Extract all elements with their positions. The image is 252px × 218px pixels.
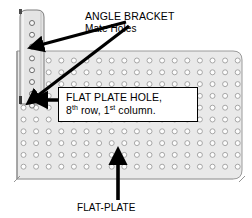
hole <box>71 129 76 134</box>
hole <box>84 82 89 87</box>
hole <box>109 70 114 75</box>
hole <box>71 58 76 63</box>
label-flat-plate: FLAT-PLATE <box>77 203 135 214</box>
hole <box>223 82 228 87</box>
hole <box>235 58 240 63</box>
hole <box>185 129 190 134</box>
hole <box>223 105 228 110</box>
hole <box>46 58 51 63</box>
hole <box>235 129 240 134</box>
hole <box>84 129 89 134</box>
hole <box>34 152 39 157</box>
hole <box>21 164 26 169</box>
hole <box>147 141 152 146</box>
hole <box>235 164 240 169</box>
hole <box>172 141 177 146</box>
hole <box>197 152 202 157</box>
hole <box>59 70 64 75</box>
hole <box>30 91 35 96</box>
hole <box>122 152 127 157</box>
hole <box>71 164 76 169</box>
hole <box>109 141 114 146</box>
hole <box>97 152 102 157</box>
hole <box>84 141 89 146</box>
hole <box>97 70 102 75</box>
hole <box>59 141 64 146</box>
hole <box>185 164 190 169</box>
hole <box>210 152 215 157</box>
hole <box>210 93 215 98</box>
hole <box>235 105 240 110</box>
hole <box>122 129 127 134</box>
hole <box>160 152 165 157</box>
hole <box>147 164 152 169</box>
hole <box>84 70 89 75</box>
hole <box>210 70 215 75</box>
hole <box>122 164 127 169</box>
hole <box>172 58 177 63</box>
hole <box>46 141 51 146</box>
hole <box>109 152 114 157</box>
hole <box>34 117 39 122</box>
hole <box>172 129 177 134</box>
hole <box>21 105 26 110</box>
hole <box>109 164 114 169</box>
hole <box>122 58 127 63</box>
hole <box>160 58 165 63</box>
hole <box>109 129 114 134</box>
hole <box>134 70 139 75</box>
hole <box>160 141 165 146</box>
hole <box>134 141 139 146</box>
hole <box>197 58 202 63</box>
hole <box>34 129 39 134</box>
hole <box>147 70 152 75</box>
hole <box>210 141 215 146</box>
hole <box>197 117 202 122</box>
callout-column-text: column. <box>115 104 155 116</box>
hole <box>134 129 139 134</box>
hole <box>59 152 64 157</box>
hole <box>210 129 215 134</box>
hole <box>109 58 114 63</box>
hole <box>185 58 190 63</box>
hole <box>21 141 26 146</box>
hole <box>235 70 240 75</box>
hole <box>197 70 202 75</box>
hole <box>197 129 202 134</box>
hole <box>30 56 35 61</box>
hole <box>122 141 127 146</box>
hole <box>134 82 139 87</box>
hole <box>172 164 177 169</box>
hole <box>235 141 240 146</box>
hole <box>210 164 215 169</box>
callout-line-flat-plate-hole: FLAT PLATE HOLE, <box>66 92 162 103</box>
hole <box>235 93 240 98</box>
hole <box>46 164 51 169</box>
diagram-canvas: ANGLE BRACKET Mate Holes FLAT PLATE HOLE… <box>0 0 252 218</box>
hole <box>97 164 102 169</box>
callout-row-text: row, 1 <box>78 104 110 116</box>
hole <box>185 70 190 75</box>
hole <box>172 70 177 75</box>
hole <box>34 141 39 146</box>
label-mate-holes: Mate Holes <box>85 24 137 35</box>
hole <box>223 93 228 98</box>
hole <box>46 117 51 122</box>
hole <box>197 82 202 87</box>
label-angle-bracket: ANGLE BRACKET <box>85 11 174 22</box>
hole <box>223 129 228 134</box>
hole <box>197 164 202 169</box>
hole <box>223 164 228 169</box>
hole <box>46 152 51 157</box>
hole <box>46 129 51 134</box>
hole <box>185 82 190 87</box>
hole <box>235 117 240 122</box>
hole <box>84 164 89 169</box>
hole <box>30 103 35 108</box>
callout-line-row-column: 8th row, 1st column. <box>66 105 156 116</box>
hole <box>147 58 152 63</box>
hole <box>122 82 127 87</box>
hole <box>21 129 26 134</box>
hole <box>235 152 240 157</box>
hole <box>210 58 215 63</box>
